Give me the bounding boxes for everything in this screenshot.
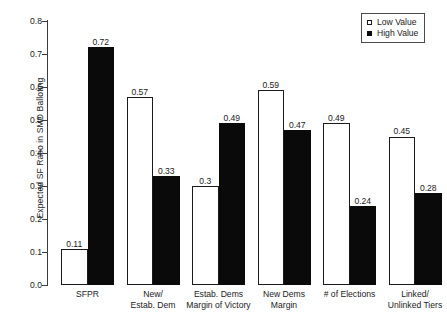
bar-low-value[interactable]: 0.59 bbox=[258, 90, 285, 285]
bar-group: 0.110.72 bbox=[61, 21, 114, 285]
filled-square-icon bbox=[367, 31, 372, 36]
x-axis-category-label-line: Unlinked Tiers bbox=[355, 300, 447, 311]
y-axis-tick-label: 0.5 bbox=[2, 115, 42, 125]
plot-area: 0.110.720.570.330.30.490.590.470.490.240… bbox=[47, 21, 441, 285]
bar-high-value[interactable]: 0.33 bbox=[153, 176, 180, 285]
bar-high-value[interactable]: 0.49 bbox=[219, 123, 246, 285]
legend-item-label: Low Value bbox=[377, 18, 417, 27]
bar-group: 0.590.47 bbox=[258, 21, 311, 285]
bar-chart-figure: Expected SF Ratio in SMD Balloting 0.80.… bbox=[0, 0, 447, 322]
bar-value-label: 0.3 bbox=[199, 177, 211, 186]
x-axis-category-label-line: Linked/ bbox=[355, 289, 447, 300]
y-axis-tick-label: 0.2 bbox=[2, 214, 42, 224]
x-axis-category-label: Linked/Unlinked Tiers bbox=[355, 289, 447, 310]
bar-value-label: 0.33 bbox=[158, 167, 175, 176]
y-axis-tick-label: 0.8 bbox=[2, 16, 42, 26]
y-axis-tick-label: 0.7 bbox=[2, 49, 42, 59]
chart-legend: Low ValueHigh Value bbox=[361, 13, 425, 43]
bar-value-label: 0.57 bbox=[131, 88, 148, 97]
y-axis-tick-label: 0.4 bbox=[2, 148, 42, 158]
bar-high-value[interactable]: 0.28 bbox=[415, 193, 442, 285]
legend-item[interactable]: High Value bbox=[366, 28, 418, 39]
bar-value-label: 0.45 bbox=[393, 127, 410, 136]
bar-low-value[interactable]: 0.45 bbox=[389, 137, 416, 286]
bar-low-value[interactable]: 0.3 bbox=[192, 186, 219, 285]
bar-value-label: 0.28 bbox=[420, 184, 437, 193]
bar-low-value[interactable]: 0.57 bbox=[127, 97, 154, 285]
bar-low-value[interactable]: 0.49 bbox=[323, 123, 350, 285]
x-axis-category-label-line: Margin bbox=[224, 300, 344, 311]
bar-value-label: 0.49 bbox=[328, 114, 345, 123]
bar-value-label: 0.11 bbox=[66, 240, 82, 249]
bar-value-label: 0.24 bbox=[354, 197, 371, 206]
open-square-icon bbox=[367, 20, 372, 25]
bar-high-value[interactable]: 0.24 bbox=[350, 206, 377, 285]
bar-value-label: 0.47 bbox=[289, 121, 306, 130]
bar-value-label: 0.49 bbox=[223, 114, 240, 123]
bar-value-label: 0.72 bbox=[92, 38, 109, 47]
bar-group: 0.30.49 bbox=[192, 21, 245, 285]
legend-item[interactable]: Low Value bbox=[366, 17, 418, 28]
bar-value-label: 0.59 bbox=[262, 81, 279, 90]
bar-high-value[interactable]: 0.47 bbox=[284, 130, 311, 285]
y-axis-tick-label: 0.3 bbox=[2, 181, 42, 191]
y-axis-tick-label: 0.6 bbox=[2, 82, 42, 92]
bar-high-value[interactable]: 0.72 bbox=[88, 47, 115, 285]
y-axis-tick-label: 0.1 bbox=[2, 247, 42, 257]
legend-item-label: High Value bbox=[377, 29, 418, 38]
bar-group: 0.450.28 bbox=[389, 21, 442, 285]
bar-group: 0.570.33 bbox=[127, 21, 180, 285]
bar-group: 0.490.24 bbox=[323, 21, 376, 285]
bar-low-value[interactable]: 0.11 bbox=[61, 249, 88, 285]
